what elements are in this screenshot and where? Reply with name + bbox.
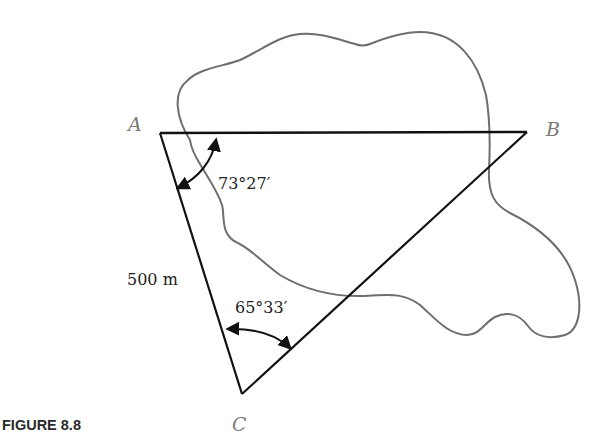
vertex-label-a: A [126, 113, 142, 135]
angle-c-label: 65°33′ [235, 298, 288, 317]
figure-canvas: A B C 73°27′ 500 m 65°33′ FIGURE 8.8 [0, 0, 597, 438]
figure-caption: FIGURE 8.8 [2, 417, 81, 433]
vertex-label-b: B [545, 118, 560, 140]
side-bc [242, 132, 527, 394]
side-ac-length-label: 500 m [127, 270, 178, 289]
side-ab [160, 132, 527, 133]
angle-arc-c [228, 329, 290, 348]
diagram-svg: A B C 73°27′ 500 m 65°33′ FIGURE 8.8 [0, 0, 597, 438]
angle-a-label: 73°27′ [218, 174, 271, 193]
vertex-label-c: C [232, 413, 247, 435]
